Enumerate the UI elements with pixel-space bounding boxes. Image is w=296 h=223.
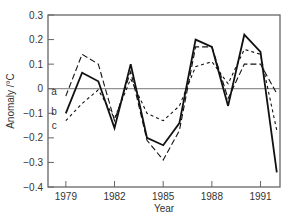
y-tick-label: 0 xyxy=(37,83,43,94)
x-tick-label: 1982 xyxy=(103,191,126,202)
series-label-c: c xyxy=(52,120,57,131)
series-line-a xyxy=(66,47,277,160)
x-axis-label: Year xyxy=(154,203,175,214)
x-tick-label: 1988 xyxy=(201,191,224,202)
y-tick-label: −0.2 xyxy=(23,132,43,143)
y-tick-label: 0.3 xyxy=(29,10,43,21)
x-tick-label: 1985 xyxy=(152,191,175,202)
y-axis-label: Anomaly /°C xyxy=(5,73,16,129)
y-tick-label: 0.2 xyxy=(29,34,43,45)
y-tick-label: −0.4 xyxy=(23,182,43,193)
y-tick-label: −0.1 xyxy=(23,108,43,119)
y-tick-label: −0.3 xyxy=(23,157,43,168)
series-label-a: a xyxy=(51,86,57,97)
x-tick-label: 1991 xyxy=(249,191,272,202)
series-line-b xyxy=(66,35,277,173)
plot-frame xyxy=(48,15,280,187)
series-label-b: b xyxy=(51,106,57,117)
chart: −0.4−0.3−0.2−0.100.10.20.319791982198519… xyxy=(0,0,296,223)
x-tick-label: 1979 xyxy=(55,191,78,202)
y-tick-label: 0.1 xyxy=(29,59,43,70)
series-line-c xyxy=(66,49,277,130)
plot-area: −0.4−0.3−0.2−0.100.10.20.319791982198519… xyxy=(23,10,280,203)
